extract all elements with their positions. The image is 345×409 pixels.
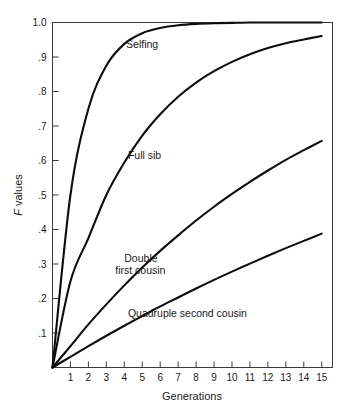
y-tick-label: .7 (38, 121, 47, 132)
x-tick-label: 1 (68, 372, 74, 383)
y-axis-ticks: .1.2.3.4.5.6.7.8.91.0 (33, 17, 59, 339)
y-axis-title: F values (12, 174, 24, 216)
y-tick-label: .9 (38, 52, 47, 63)
f-values-line-chart: .1.2.3.4.5.6.7.8.91.0 123456789101112131… (0, 0, 345, 409)
series-label-line: first cousin (115, 264, 165, 276)
x-tick-label: 7 (175, 372, 181, 383)
y-axis-title-rest: values (12, 174, 24, 209)
x-tick-label: 2 (86, 372, 92, 383)
x-tick-label: 4 (122, 372, 128, 383)
x-tick-label: 10 (226, 372, 238, 383)
chart-figure: .1.2.3.4.5.6.7.8.91.0 123456789101112131… (0, 0, 345, 409)
x-tick-label: 11 (245, 372, 256, 383)
x-axis-ticks: 123456789101112131415 (68, 362, 328, 383)
x-tick-label: 12 (262, 372, 274, 383)
x-tick-label: 15 (316, 372, 328, 383)
series-label-line: Double (124, 252, 157, 264)
series-curve (53, 234, 322, 368)
y-tick-label: 1.0 (33, 17, 47, 28)
series-label: Quadruple second cousin (128, 307, 247, 319)
series-curve (53, 141, 322, 368)
series-label: Selfing (126, 38, 158, 50)
x-tick-label: 3 (104, 372, 110, 383)
x-axis-title: Generations (162, 390, 222, 402)
series-label: Doublefirst cousin (115, 252, 165, 276)
y-tick-label: .5 (38, 190, 47, 201)
x-tick-label: 14 (298, 372, 310, 383)
x-tick-label: 9 (211, 372, 217, 383)
y-tick-label: .8 (38, 86, 47, 97)
x-tick-label: 13 (280, 372, 292, 383)
y-tick-label: .3 (38, 259, 47, 270)
y-tick-label: .6 (38, 155, 47, 166)
y-tick-label: .1 (38, 328, 47, 339)
series-label: Full sib (128, 149, 161, 161)
y-tick-label: .4 (38, 224, 47, 235)
y-tick-label: .2 (38, 293, 47, 304)
curve-labels: SelfingFull sibDoublefirst cousinQuadrup… (115, 38, 247, 319)
x-tick-label: 6 (157, 372, 163, 383)
x-tick-label: 5 (139, 372, 145, 383)
x-tick-label: 8 (193, 372, 199, 383)
